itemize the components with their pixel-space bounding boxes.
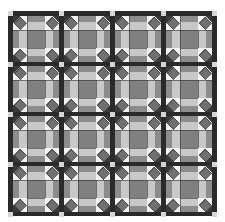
- cornerstone: [59, 212, 64, 217]
- cornerstone: [212, 112, 217, 117]
- quilt-block: [13, 166, 59, 212]
- cornerstone: [212, 62, 217, 67]
- quilt: [8, 11, 217, 216]
- cornerstone: [212, 212, 217, 217]
- quilt-block: [115, 116, 161, 162]
- quilt-block: [13, 16, 59, 62]
- quilt-block: [64, 16, 110, 62]
- quilt-block: [166, 166, 212, 212]
- cornerstone: [212, 11, 217, 16]
- quilt-block: [64, 66, 110, 112]
- quilt-block: [64, 116, 110, 162]
- cornerstone: [110, 212, 115, 217]
- cornerstone: [212, 162, 217, 167]
- cornerstone: [161, 212, 166, 217]
- quilt-block: [115, 66, 161, 112]
- quilt-block: [115, 166, 161, 212]
- quilt-block: [166, 16, 212, 62]
- quilt-block: [13, 66, 59, 112]
- quilt-block: [115, 16, 161, 62]
- quilt-block: [166, 116, 212, 162]
- quilt-block: [13, 116, 59, 162]
- quilt-block: [64, 166, 110, 212]
- quilt-block: [166, 66, 212, 112]
- cornerstone: [8, 212, 13, 217]
